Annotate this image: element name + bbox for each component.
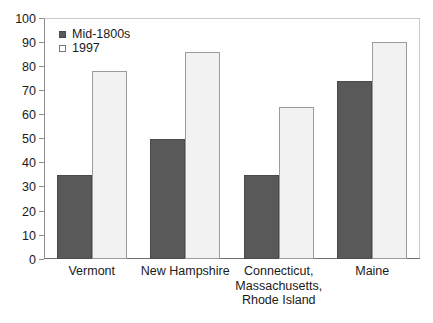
bar	[279, 107, 314, 259]
y-axis-tick: 20	[22, 205, 44, 217]
y-axis: 0102030405060708090100	[0, 12, 44, 260]
x-axis-label-line: New Hampshire	[139, 264, 233, 279]
bar-group	[139, 18, 233, 259]
x-axis-label: Vermont	[45, 264, 139, 320]
y-axis-tick: 40	[22, 157, 44, 169]
legend-label: Mid-1800s	[72, 28, 130, 41]
legend-label: 1997	[72, 42, 100, 55]
y-axis-tick: 90	[22, 36, 44, 48]
y-axis-tick: 50	[22, 133, 44, 145]
x-axis-label-line: Connecticut,	[232, 264, 326, 279]
y-axis-tick-label: 100	[15, 13, 36, 25]
chart-legend: Mid-1800s1997	[59, 28, 130, 55]
y-axis-tick: 70	[22, 84, 44, 96]
y-axis-tick: 10	[22, 229, 44, 241]
y-axis-tick-label: 90	[22, 37, 36, 49]
bar	[244, 175, 279, 259]
y-axis-tick-label: 50	[22, 133, 36, 145]
bar	[337, 81, 372, 259]
y-axis-tick: 100	[15, 12, 44, 24]
y-axis-tick-label: 70	[22, 85, 36, 97]
legend-swatch-icon	[59, 31, 66, 38]
y-axis-tick-label: 80	[22, 61, 36, 73]
y-axis-tick: 80	[22, 60, 44, 72]
bar	[372, 42, 407, 259]
x-axis: VermontNew HampshireConnecticut,Massachu…	[45, 264, 419, 320]
bar-group	[232, 18, 326, 259]
legend-swatch-icon	[59, 45, 66, 52]
x-axis-label-line: Maine	[326, 264, 420, 279]
bar	[92, 71, 127, 259]
bar-group	[326, 18, 420, 259]
y-axis-tick: 0	[29, 253, 44, 265]
bar	[185, 52, 220, 259]
y-axis-tick: 30	[22, 181, 44, 193]
y-axis-tick-label: 40	[22, 157, 36, 169]
x-axis-label-line: Rhode Island	[232, 293, 326, 308]
x-axis-label: New Hampshire	[139, 264, 233, 320]
y-axis-tick-label: 30	[22, 181, 36, 193]
x-axis-label: Connecticut,Massachusetts,Rhode Island	[232, 264, 326, 320]
y-axis-tick-label: 20	[22, 206, 36, 218]
y-axis-tick-label: 60	[22, 109, 36, 121]
y-axis-tick-label: 0	[29, 254, 36, 266]
legend-item: 1997	[59, 42, 130, 55]
x-axis-label: Maine	[326, 264, 420, 320]
legend-item: Mid-1800s	[59, 28, 130, 41]
bar-chart-figure: 0102030405060708090100 Mid-1800s1997 Ver…	[0, 0, 433, 323]
x-axis-label-line: Vermont	[45, 264, 139, 279]
bar	[150, 139, 185, 260]
bar	[57, 175, 92, 259]
x-axis-label-line: Massachusetts,	[232, 279, 326, 294]
y-axis-tick-label: 10	[22, 230, 36, 242]
y-axis-tick: 60	[22, 108, 44, 120]
